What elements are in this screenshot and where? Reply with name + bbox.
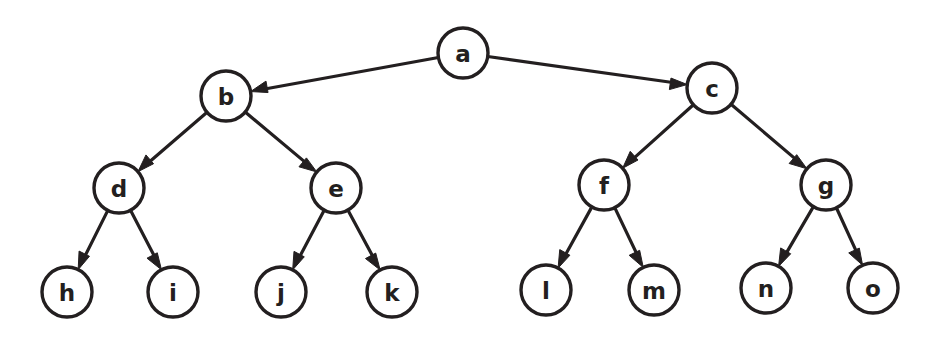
tree-node-b[interactable]: b (201, 71, 251, 121)
node-label-n: n (758, 276, 774, 302)
tree-diagram-svg: abcdefghijklmno (0, 0, 935, 339)
node-label-j: j (276, 280, 285, 306)
tree-edge-e-j (293, 210, 325, 270)
node-label-c: c (705, 76, 719, 102)
tree-node-l[interactable]: l (521, 265, 571, 315)
tree-node-g[interactable]: g (801, 160, 851, 210)
tree-node-o[interactable]: o (848, 263, 898, 313)
tree-edge-a-b (251, 57, 439, 92)
tree-node-f[interactable]: f (579, 160, 629, 210)
tree-node-e[interactable]: e (311, 163, 361, 213)
node-label-h: h (59, 280, 75, 306)
node-label-g: g (818, 173, 834, 199)
tree-edge-f-m (615, 208, 644, 268)
nodes-layer: abcdefghijklmno (42, 28, 898, 317)
tree-edge-f-l (558, 207, 592, 268)
node-label-m: m (642, 278, 666, 304)
tree-edge-g-o (836, 208, 862, 266)
tree-node-d[interactable]: d (94, 163, 144, 213)
node-label-e: e (328, 176, 344, 202)
tree-node-n[interactable]: n (741, 263, 791, 313)
tree-edge-b-e (245, 112, 317, 172)
edges-layer (78, 56, 862, 270)
node-label-f: f (599, 173, 610, 199)
tree-edge-c-f (623, 105, 694, 169)
tree-diagram-canvas: abcdefghijklmno (0, 0, 935, 339)
tree-node-j[interactable]: j (256, 267, 306, 317)
tree-edge-e-k (348, 210, 380, 270)
tree-edge-d-i (131, 210, 162, 270)
tree-edge-b-d (138, 112, 207, 171)
node-label-o: o (865, 276, 881, 302)
tree-edge-a-c (488, 56, 687, 89)
node-label-i: i (169, 280, 177, 306)
tree-edge-d-h (78, 210, 108, 269)
tree-node-c[interactable]: c (687, 63, 737, 113)
node-label-b: b (218, 84, 234, 110)
tree-edge-g-n (779, 207, 814, 267)
node-label-k: k (384, 280, 400, 306)
tree-node-h[interactable]: h (42, 267, 92, 317)
tree-node-i[interactable]: i (148, 267, 198, 317)
tree-node-a[interactable]: a (438, 28, 488, 78)
node-label-l: l (542, 278, 550, 304)
node-label-a: a (455, 41, 471, 67)
node-label-d: d (111, 176, 127, 202)
tree-node-m[interactable]: m (629, 265, 679, 315)
tree-node-k[interactable]: k (367, 267, 417, 317)
tree-edge-c-g (731, 104, 807, 169)
